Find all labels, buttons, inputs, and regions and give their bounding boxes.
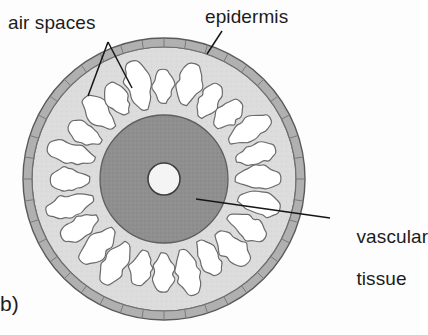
label-vascular-line2: tissue <box>335 268 428 289</box>
label-vascular-tissue: vascular tissue <box>335 205 428 331</box>
label-vascular-line1: vascular <box>357 226 428 247</box>
label-air-spaces: air spaces <box>8 12 96 33</box>
label-epidermis: epidermis <box>205 6 288 27</box>
panel-letter: b) <box>0 293 19 314</box>
central-cavity <box>148 163 180 195</box>
